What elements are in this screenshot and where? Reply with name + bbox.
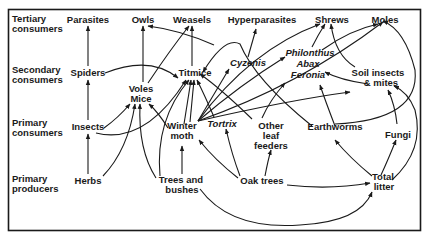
- node-herbs: Herbs: [75, 175, 102, 186]
- food-web-diagram: Tertiary consumers Secondary consumers P…: [0, 0, 430, 239]
- node-weasels: Weasels: [173, 14, 211, 25]
- node-other-leaf-line3: feeders: [254, 140, 288, 151]
- node-hyperparasites: Hyperparasites: [228, 14, 297, 25]
- level-primary-consumers-line2: consumers: [12, 127, 63, 138]
- node-trees-line2: bushes: [165, 184, 198, 195]
- level-secondary-line2: consumers: [12, 74, 63, 85]
- node-soil-insects-line2: & mites: [364, 77, 398, 88]
- level-tertiary-line2: consumers: [12, 23, 63, 34]
- node-winter-moth-line2: moth: [170, 130, 193, 141]
- trophic-level-labels: Tertiary consumers Secondary consumers P…: [12, 13, 63, 194]
- node-tortrix: Tortrix: [207, 118, 237, 129]
- node-feronia: Feronia: [291, 69, 325, 80]
- node-moles: Moles: [372, 14, 399, 25]
- food-web-nodes: Parasites Owls Weasels Hyperparasites Sh…: [67, 14, 411, 195]
- node-owls: Owls: [132, 14, 155, 25]
- node-cyzenis: Cyzenis: [230, 57, 266, 68]
- node-mice: Mice: [130, 93, 151, 104]
- node-spiders: Spiders: [71, 67, 106, 78]
- node-fungi: Fungi: [385, 129, 411, 140]
- node-oak-trees: Oak trees: [240, 175, 283, 186]
- node-insects: Insects: [72, 121, 105, 132]
- node-earthworms: Earthworms: [308, 121, 363, 132]
- level-primary-producers-line2: producers: [12, 183, 58, 194]
- node-total-litter-line2: litter: [374, 181, 395, 192]
- node-parasites: Parasites: [67, 14, 109, 25]
- food-web-edges: [88, 21, 417, 226]
- node-abax: Abax: [295, 58, 320, 69]
- node-titmice: Titmice: [178, 67, 211, 78]
- node-shrews: Shrews: [315, 14, 349, 25]
- node-philonthus: Philonthus: [285, 47, 334, 58]
